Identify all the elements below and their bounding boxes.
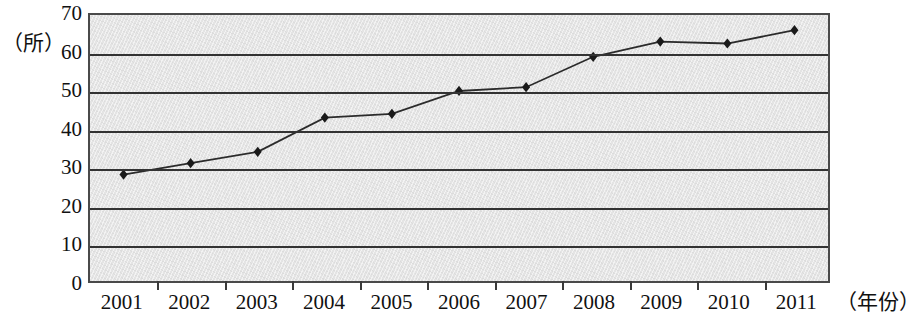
x-axis-tick-label: 2010 bbox=[708, 292, 750, 313]
data-point-marker bbox=[790, 25, 798, 35]
x-axis-tick-label: 2008 bbox=[573, 292, 615, 313]
data-point-marker bbox=[187, 158, 195, 168]
x-axis-tick-label: 2006 bbox=[438, 292, 480, 313]
x-axis-tick-label: 2011 bbox=[776, 292, 817, 313]
y-axis-tick-label: 50 bbox=[48, 80, 82, 101]
gridline bbox=[90, 208, 828, 210]
x-axis-tick-label: 2001 bbox=[101, 292, 143, 313]
gridline bbox=[90, 54, 828, 56]
y-axis-tick-label: 10 bbox=[48, 234, 82, 255]
y-axis-tick-label: 60 bbox=[48, 41, 82, 62]
series-line bbox=[124, 30, 795, 174]
y-axis-tick-label: 0 bbox=[48, 273, 82, 294]
x-axis-tick-mark bbox=[697, 281, 699, 290]
data-point-marker bbox=[522, 82, 530, 92]
x-axis-tick-mark bbox=[765, 281, 767, 290]
x-axis-tick-label: 2002 bbox=[168, 292, 210, 313]
x-axis-tick-label: 2005 bbox=[371, 292, 413, 313]
x-axis-tick-mark bbox=[630, 281, 632, 290]
x-axis-tick-mark bbox=[157, 281, 159, 290]
x-axis-title: （年份） bbox=[836, 292, 911, 313]
x-axis-tick-mark bbox=[495, 281, 497, 290]
gridline bbox=[90, 246, 828, 248]
gridline bbox=[90, 92, 828, 94]
y-axis-tick-labels: 010203040506070 bbox=[44, 0, 82, 317]
x-axis-tick-mark bbox=[292, 281, 294, 290]
data-point-marker bbox=[388, 109, 396, 119]
data-point-marker bbox=[321, 112, 329, 122]
data-point-marker bbox=[656, 36, 664, 46]
y-axis-tick-label: 30 bbox=[48, 157, 82, 178]
x-axis-tick-label: 2007 bbox=[505, 292, 547, 313]
gridline bbox=[90, 131, 828, 133]
x-axis-tick-label: 2004 bbox=[303, 292, 345, 313]
y-axis-tick-label: 20 bbox=[48, 195, 82, 216]
x-axis-tick-mark bbox=[427, 281, 429, 290]
plot-inner bbox=[90, 15, 828, 281]
data-point-marker bbox=[455, 86, 463, 96]
gridline bbox=[90, 169, 828, 171]
x-axis-tick-label: 2009 bbox=[640, 292, 682, 313]
x-axis-tick-label: 2003 bbox=[236, 292, 278, 313]
data-point-marker bbox=[254, 147, 262, 157]
x-axis-tick-mark bbox=[225, 281, 227, 290]
y-axis-tick-label: 40 bbox=[48, 118, 82, 139]
y-axis-tick-label: 70 bbox=[48, 3, 82, 24]
plot-area bbox=[88, 13, 830, 283]
x-axis-tick-mark bbox=[562, 281, 564, 290]
data-point-marker bbox=[723, 38, 731, 48]
x-axis-tick-mark bbox=[360, 281, 362, 290]
